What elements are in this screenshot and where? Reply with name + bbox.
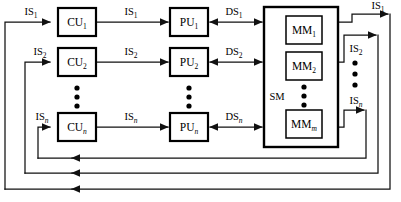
ellipsis-dot: [186, 85, 191, 90]
edge-label-is1-middle: IS1: [124, 6, 137, 20]
edge-label-isn-left: ISn: [35, 111, 48, 125]
ellipsis-dot: [301, 84, 306, 89]
edge-label-is2-right: IS2: [349, 43, 362, 57]
edge-label-is1-right: IS1: [371, 0, 384, 14]
edge-label-isn-middle: ISn: [124, 111, 137, 125]
ellipsis-dot: [352, 82, 357, 87]
ellipsis-dot: [74, 103, 79, 108]
shared-memory-label: SM: [269, 91, 285, 102]
ellipsis-dot: [301, 102, 306, 107]
ellipsis-dot: [186, 103, 191, 108]
edge-label-isn-right: ISn: [349, 95, 362, 109]
edge-label-is1-left: IS1: [24, 6, 37, 20]
edge-label-dsn: DSn: [225, 111, 242, 125]
ellipsis-dot: [74, 85, 79, 90]
edge-label-ds1: DS1: [225, 6, 242, 20]
output-rail-is1-return: [72, 14, 390, 189]
ellipsis-dot: [186, 94, 191, 99]
output-rail-isn: [338, 110, 364, 127]
edge-label-is2-middle: IS2: [124, 46, 137, 60]
block-diagram: CU1 CU2 CUn PU1 PU2 PUn MM1 MM2 MMm SM I…: [0, 0, 401, 202]
feedback-rail-inner: [38, 127, 50, 158]
ellipsis-dot: [352, 60, 357, 65]
ellipsis-dot: [301, 93, 306, 98]
diagram-canvas: CU1 CU2 CUn PU1 PU2 PUn MM1 MM2 MMm SM I…: [0, 0, 401, 202]
edge-label-ds2: DS2: [225, 46, 242, 60]
ellipsis-dot: [74, 94, 79, 99]
output-rail-is1: [338, 14, 388, 22]
edge-label-is2-left: IS2: [33, 46, 46, 60]
feedback-rail-outer: [5, 22, 50, 189]
ellipsis-dot: [352, 71, 357, 76]
